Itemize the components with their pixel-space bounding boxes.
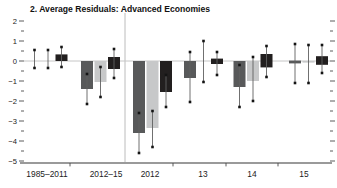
whisker-bottom-marker-black-15 bbox=[321, 72, 324, 75]
whisker-bottom-marker-light-gray-2012-15 bbox=[99, 96, 102, 99]
whisker-top-marker-black-1985-2011 bbox=[60, 46, 63, 49]
y-tick-label: 2 bbox=[13, 17, 17, 26]
x-category-label-14: 14 bbox=[247, 169, 257, 179]
whisker-bottom-marker-light-gray-1985-2011 bbox=[47, 67, 50, 70]
x-category-label-2012-15: 2012–15 bbox=[90, 169, 123, 179]
whisker-bottom-marker-light-gray-14 bbox=[252, 100, 255, 103]
whisker-bottom-marker-dark-gray-1985-2011 bbox=[33, 67, 36, 70]
whisker-bottom-marker-dark-gray-13 bbox=[189, 101, 192, 104]
y-tick-label: 0 bbox=[13, 57, 17, 66]
whisker-bottom-marker-black-13 bbox=[216, 74, 219, 77]
whisker-bottom-marker-black-14 bbox=[265, 76, 268, 79]
whisker-top-marker-light-gray-13 bbox=[202, 40, 205, 43]
y-tick-label: −4 bbox=[8, 137, 17, 146]
whisker-bottom-marker-dark-gray-2012-15 bbox=[86, 103, 89, 106]
whisker-bottom-marker-black-2012 bbox=[165, 106, 168, 109]
chart-canvas: 2. Average Residuals: Advanced Economies… bbox=[0, 0, 337, 188]
whisker-bottom-marker-light-gray-2012 bbox=[151, 146, 154, 149]
x-category-label-2012: 2012 bbox=[141, 169, 160, 179]
x-category-label-15: 15 bbox=[299, 169, 309, 179]
whisker-bottom-marker-light-gray-13 bbox=[202, 81, 205, 84]
whisker-top-marker-dark-gray-13 bbox=[189, 51, 192, 54]
x-category-label-1985-2011: 1985–2011 bbox=[26, 169, 68, 179]
chart-title: 2. Average Residuals: Advanced Economies bbox=[30, 4, 210, 14]
whisker-top-marker-black-2012 bbox=[165, 74, 168, 77]
whisker-top-marker-black-2012-15 bbox=[113, 48, 116, 51]
y-tick-label: −5 bbox=[8, 157, 17, 166]
whisker-top-marker-light-gray-1985-2011 bbox=[47, 49, 50, 52]
residuals-chart-panel: 2. Average Residuals: Advanced Economies… bbox=[0, 0, 337, 188]
whisker-top-marker-black-13 bbox=[216, 51, 219, 54]
whisker-top-marker-dark-gray-14 bbox=[238, 64, 241, 67]
whisker-bottom-marker-dark-gray-15 bbox=[294, 82, 297, 85]
y-tick-label: 1 bbox=[13, 37, 17, 46]
whisker-bottom-marker-dark-gray-14 bbox=[238, 106, 241, 109]
whisker-top-marker-light-gray-14 bbox=[252, 56, 255, 59]
whisker-top-marker-black-14 bbox=[265, 45, 268, 48]
y-tick-label: −2 bbox=[8, 97, 17, 106]
whisker-top-marker-light-gray-2012-15 bbox=[99, 66, 102, 69]
y-tick-label: −1 bbox=[8, 77, 17, 86]
whisker-bottom-marker-black-2012-15 bbox=[113, 77, 116, 80]
whisker-top-marker-black-15 bbox=[321, 44, 324, 47]
whisker-bottom-marker-dark-gray-2012 bbox=[138, 152, 141, 155]
whisker-top-marker-dark-gray-2012-15 bbox=[86, 73, 89, 76]
x-category-label-13: 13 bbox=[198, 169, 208, 179]
whisker-top-marker-light-gray-2012 bbox=[151, 110, 154, 113]
whisker-top-marker-dark-gray-2012 bbox=[138, 112, 141, 115]
whisker-top-marker-light-gray-15 bbox=[307, 44, 310, 47]
y-tick-label: −3 bbox=[8, 117, 17, 126]
whisker-top-marker-dark-gray-15 bbox=[294, 43, 297, 46]
whisker-bottom-marker-light-gray-15 bbox=[307, 82, 310, 85]
whisker-bottom-marker-black-1985-2011 bbox=[60, 66, 63, 69]
whisker-top-marker-dark-gray-1985-2011 bbox=[33, 49, 36, 52]
